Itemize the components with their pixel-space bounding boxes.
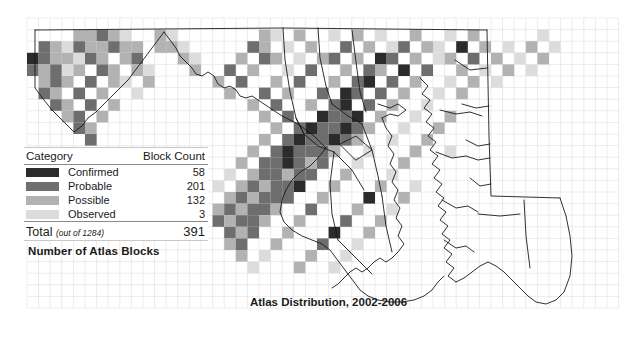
atlas-block-cell (340, 134, 352, 146)
atlas-block-cell (73, 41, 85, 53)
atlas-block-cell (317, 111, 329, 123)
atlas-block-cell (62, 76, 74, 88)
atlas-block-cell (398, 88, 410, 100)
atlas-block-cell (363, 76, 375, 88)
atlas-block-cell (131, 41, 143, 53)
atlas-block-cell (352, 76, 364, 88)
atlas-block-cell (73, 111, 85, 123)
legend-header-count: Block Count (130, 148, 208, 165)
atlas-block-cell (410, 30, 422, 42)
atlas-block-cell (456, 41, 468, 53)
atlas-block-cell (352, 134, 364, 146)
atlas-block-cell (329, 53, 341, 65)
atlas-block-cell (247, 215, 259, 227)
atlas-block-cell (305, 250, 317, 262)
atlas-block-cell (375, 88, 387, 100)
atlas-block-cell (85, 30, 97, 42)
atlas-block-cell (247, 146, 259, 158)
atlas-block-cell (224, 238, 236, 250)
legend-table: Category Block Count Confirmed58Probable… (24, 147, 208, 241)
atlas-block-cell (387, 76, 399, 88)
atlas-block-cell (213, 76, 225, 88)
atlas-block-cell (456, 64, 468, 76)
legend-header-category: Category (24, 148, 130, 165)
legend-swatch-cell (24, 193, 62, 207)
atlas-block-cell (398, 41, 410, 53)
legend-total-row: Total (out of 1284) 391 (24, 222, 208, 241)
atlas-block-cell (97, 111, 109, 123)
atlas-block-cell (213, 204, 225, 216)
atlas-block-cell (236, 227, 248, 239)
legend-swatch (26, 168, 59, 177)
atlas-block-cell (97, 53, 109, 65)
atlas-block-cell (363, 41, 375, 53)
atlas-block-cell (445, 53, 457, 65)
atlas-block-cell (468, 30, 480, 42)
atlas-block-cell (317, 53, 329, 65)
atlas-block-cell (282, 64, 294, 76)
atlas-block-cell (340, 88, 352, 100)
atlas-block-cell (62, 41, 74, 53)
atlas-block-cell (120, 30, 132, 42)
atlas-block-cell (329, 122, 341, 134)
atlas-block-cell (456, 88, 468, 100)
atlas-block-cell (50, 88, 62, 100)
atlas-block-cell (236, 76, 248, 88)
atlas-block-cell (224, 88, 236, 100)
atlas-block-cell (224, 169, 236, 181)
atlas-block-cell (247, 204, 259, 216)
atlas-block-cell (340, 169, 352, 181)
atlas-block-cell (537, 53, 549, 65)
atlas-block-cell (294, 215, 306, 227)
atlas-block-cell (236, 157, 248, 169)
atlas-block-cell (143, 76, 155, 88)
legend-swatch-cell (24, 179, 62, 193)
atlas-block-cell (282, 169, 294, 181)
atlas-block-cell (108, 99, 120, 111)
nanticoke-river (442, 200, 478, 212)
atlas-block-cell (282, 88, 294, 100)
atlas-block-cell (387, 134, 399, 146)
atlas-block-cell (143, 64, 155, 76)
atlas-block-cell (479, 64, 491, 76)
atlas-block-cell (410, 111, 422, 123)
legend-header-row: Category Block Count (24, 148, 208, 165)
atlas-block-cell (271, 146, 283, 158)
atlas-block-cell (433, 41, 445, 53)
atlas-block-cell (410, 53, 422, 65)
atlas-block-cell (39, 53, 51, 65)
atlas-block-cell (236, 215, 248, 227)
atlas-block-cell (97, 30, 109, 42)
atlas-block-cell (259, 157, 271, 169)
atlas-block-cell (247, 41, 259, 53)
atlas-block-cell (213, 180, 225, 192)
atlas-block-cell (85, 122, 97, 134)
atlas-block-cell (271, 122, 283, 134)
atlas-block-cell (282, 146, 294, 158)
atlas-block-cell (224, 227, 236, 239)
atlas-block-cell (120, 53, 132, 65)
atlas-block-cell (387, 204, 399, 216)
atlas-block-cell (259, 215, 271, 227)
atlas-block-cell (421, 64, 433, 76)
county-line-worcester (524, 200, 530, 268)
atlas-block-cell (50, 64, 62, 76)
atlas-block-cell (247, 180, 259, 192)
legend-row: Observed3 (24, 207, 208, 222)
atlas-block-cell (224, 204, 236, 216)
atlas-block-cell (97, 64, 109, 76)
atlas-block-cell (247, 227, 259, 239)
choptank-river (436, 152, 490, 160)
legend-label: Observed (62, 207, 130, 222)
legend-label: Confirmed (62, 165, 130, 180)
atlas-block-cell (73, 64, 85, 76)
atlas-block-cell (236, 204, 248, 216)
atlas-block-cell (387, 53, 399, 65)
atlas-block-cell (526, 64, 538, 76)
atlas-block-cell (294, 262, 306, 274)
atlas-block-cell (317, 192, 329, 204)
legend-row: Possible132 (24, 193, 208, 207)
atlas-block-cell (340, 122, 352, 134)
atlas-block-cell (352, 53, 364, 65)
county-line-kent (462, 104, 489, 108)
